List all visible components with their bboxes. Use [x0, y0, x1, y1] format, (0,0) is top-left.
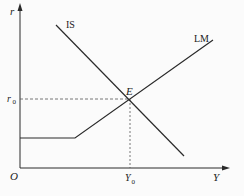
equilibrium-label: E [125, 85, 133, 97]
is-lm-diagram: r IS LM E r 0 O Y 0 Y [0, 0, 244, 196]
is-label: IS [66, 19, 75, 30]
svg-text:0: 0 [13, 98, 17, 106]
lm-curve [20, 40, 213, 138]
x-axis-label: Y [213, 171, 221, 183]
y-axis-label: r [10, 5, 15, 17]
origin-label: O [10, 170, 18, 182]
y-axis-arrow-icon [18, 3, 23, 11]
x-axis-arrow-icon [222, 166, 230, 171]
y0-label: Y 0 [125, 172, 136, 186]
r0-label: r 0 [7, 93, 17, 106]
svg-text:r: r [7, 93, 11, 104]
is-curve [56, 25, 184, 156]
svg-text:0: 0 [132, 178, 136, 186]
lm-label: LM [194, 33, 209, 44]
diagram-svg: r IS LM E r 0 O Y 0 Y [0, 0, 244, 196]
